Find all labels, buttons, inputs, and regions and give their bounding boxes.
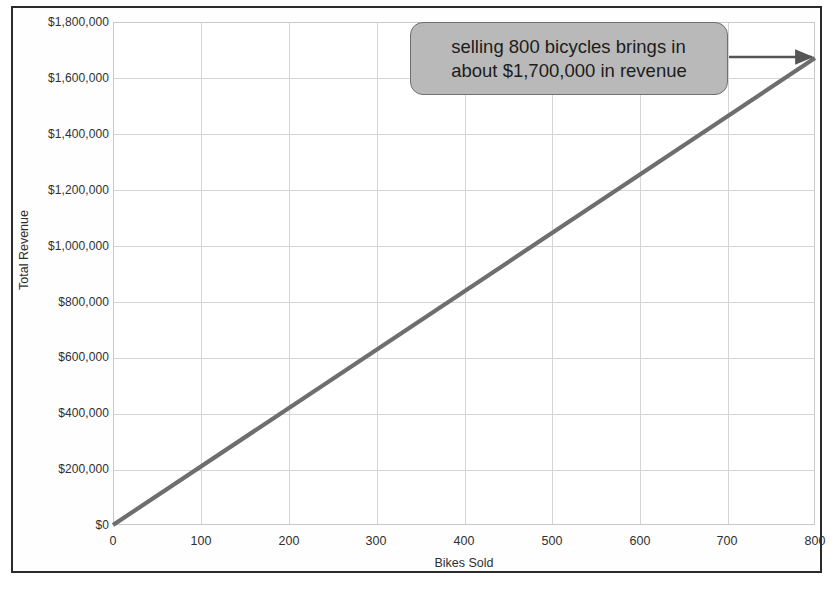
y-tick-label: $600,000 (5, 350, 109, 364)
y-axis-title: Total Revenue (17, 190, 31, 310)
chart-figure: $1,800,000 $1,600,000 $1,400,000 $1,200,… (0, 0, 833, 589)
gridline-horizontal (114, 302, 814, 303)
gridline-vertical (289, 23, 290, 524)
gridline-horizontal (114, 358, 814, 359)
gridline-vertical (201, 23, 202, 524)
x-axis-title: Bikes Sold (113, 556, 815, 570)
x-tick-label: 100 (191, 534, 212, 548)
gridline-vertical (552, 23, 553, 524)
x-tick-label: 0 (110, 534, 117, 548)
x-tick-label: 300 (366, 534, 387, 548)
x-tick-label: 800 (805, 534, 826, 548)
gridline-vertical (465, 23, 466, 524)
x-tick-label: 200 (279, 534, 300, 548)
y-tick-label: $400,000 (5, 406, 109, 420)
gridline-horizontal (114, 470, 814, 471)
x-tick-label: 600 (630, 534, 651, 548)
plot-area (113, 22, 815, 525)
gridline-vertical (640, 23, 641, 524)
y-tick-label: $1,400,000 (5, 127, 109, 141)
y-tick-label: $1,800,000 (5, 15, 109, 29)
y-tick-label: $0 (5, 518, 109, 532)
x-tick-label: 400 (454, 534, 475, 548)
annotation-callout-text: selling 800 bicycles brings in about $1,… (451, 35, 687, 82)
annotation-callout: selling 800 bicycles brings in about $1,… (410, 22, 728, 95)
gridline-horizontal (114, 414, 814, 415)
gridline-horizontal (114, 190, 814, 191)
y-tick-label: $200,000 (5, 462, 109, 476)
gridline-horizontal (114, 134, 814, 135)
x-tick-label: 700 (717, 534, 738, 548)
gridline-horizontal (114, 246, 814, 247)
gridline-vertical (377, 23, 378, 524)
gridline-vertical (728, 23, 729, 524)
y-tick-label: $1,600,000 (5, 71, 109, 85)
x-tick-label: 500 (542, 534, 563, 548)
